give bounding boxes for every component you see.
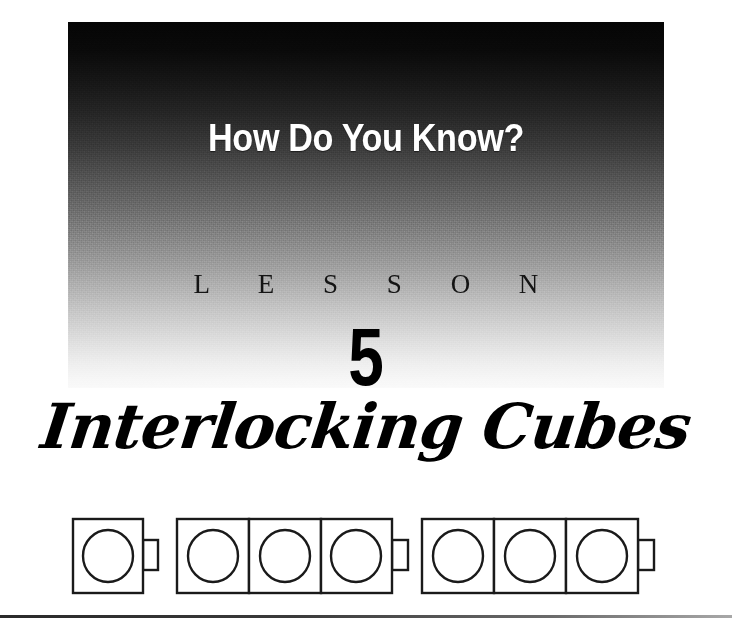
connector-tab — [143, 540, 158, 570]
cube-stud-circle — [577, 530, 627, 582]
page-root: How Do You Know? L E S S O N 5 Interlock… — [0, 0, 732, 626]
cube-group-of-1 — [73, 519, 158, 593]
connector-tab — [392, 540, 408, 570]
cube-stud-circle — [505, 530, 555, 582]
page-title: How Do You Know? — [37, 119, 696, 157]
cube-stud-circle — [188, 530, 238, 582]
lesson-number: 5 — [73, 316, 659, 398]
cube-group-of-3-right — [422, 519, 654, 593]
cube-stud-circle — [83, 530, 133, 582]
cube-stud-circle — [260, 530, 310, 582]
interlocking-cubes-diagram — [0, 512, 732, 602]
cube-group-of-3-left — [177, 519, 408, 593]
cubes-svg — [0, 512, 732, 602]
lesson-kicker-label: L E S S O N — [0, 271, 732, 298]
connector-tab — [638, 540, 654, 570]
cube-stud-circle — [433, 530, 483, 582]
footer-divider — [0, 615, 732, 618]
lesson-name-heading: Interlocking Cubes — [0, 396, 732, 458]
cube-stud-circle — [331, 530, 381, 582]
